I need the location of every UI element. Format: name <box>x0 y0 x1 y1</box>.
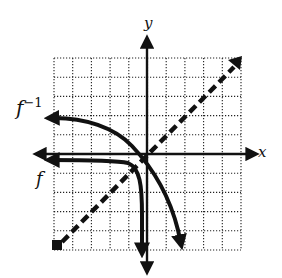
f-inverse-label-sup: −1 <box>23 95 42 110</box>
identity-line-end-marker <box>52 240 62 250</box>
x-axis-label: x <box>258 143 266 161</box>
y-axis-label: y <box>144 14 152 32</box>
f-label: f <box>36 168 43 189</box>
f-inverse-label: f−1 <box>16 95 43 120</box>
f-inverse-curve <box>50 118 181 244</box>
graph-canvas <box>0 0 282 278</box>
